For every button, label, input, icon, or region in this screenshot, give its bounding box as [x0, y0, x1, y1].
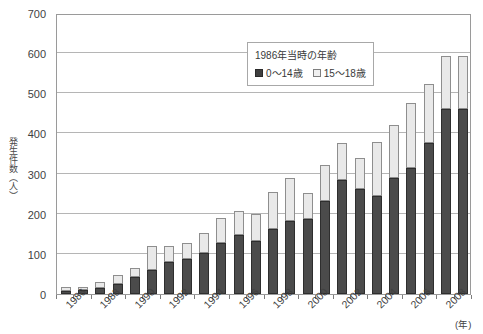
legend: 1986年当時の年齢 0～14歳15～18歳 [247, 42, 374, 86]
legend-swatch-dark-icon [255, 69, 263, 77]
x-axis-tick-label: 1988 [97, 285, 122, 310]
x-axis-tick-label: 2008 [443, 285, 468, 310]
x-axis-unit-label: (年) [455, 317, 471, 331]
x-axis-tick-label: 1992 [166, 285, 191, 310]
legend-entry: 15～18歳 [313, 65, 366, 80]
bar-chart: 発生件数（人） 0100200300400500600700 198619881… [0, 0, 483, 334]
legend-label: 15～18歳 [324, 65, 366, 80]
x-axis-tick-label: 2000 [305, 285, 330, 310]
x-axis-tick-label: 2002 [339, 285, 364, 310]
legend-title: 1986年当時の年齢 [255, 47, 366, 62]
x-axis-tick-labels: 1986198819901992199419961998200020022004… [0, 0, 483, 334]
x-axis-tick-label: 2006 [408, 285, 433, 310]
legend-label: 0～14歳 [266, 65, 303, 80]
x-axis-tick-label: 1996 [236, 285, 261, 310]
x-axis-tick-label: 1994 [201, 285, 226, 310]
x-axis-tick-label: 1998 [270, 285, 295, 310]
x-axis-tick-label: 1986 [63, 285, 88, 310]
legend-entries: 0～14歳15～18歳 [255, 65, 366, 80]
legend-swatch-light-icon [313, 69, 321, 77]
legend-entry: 0～14歳 [255, 65, 303, 80]
x-axis-tick-label: 1990 [132, 285, 157, 310]
x-axis-tick-label: 2004 [374, 285, 399, 310]
